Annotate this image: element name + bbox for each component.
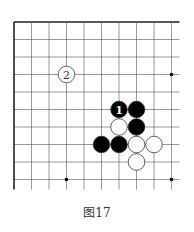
- stone-body: [128, 136, 145, 153]
- star-point: [65, 178, 69, 182]
- figure-caption: 图17: [0, 203, 194, 220]
- move-number-label: 1: [115, 104, 123, 117]
- white-stone: [111, 119, 128, 136]
- move-number-label: 2: [63, 69, 70, 82]
- star-point: [170, 178, 174, 182]
- stone-body: [128, 119, 145, 136]
- black-stone: [128, 101, 145, 118]
- stone-body: [111, 119, 128, 136]
- white-stone: [128, 136, 145, 153]
- black-stone: 1: [111, 101, 128, 118]
- stone-body: [146, 136, 163, 153]
- stone-body: [93, 136, 110, 153]
- white-stone: 2: [58, 66, 75, 83]
- black-stone: [93, 136, 110, 153]
- white-stone: [146, 136, 163, 153]
- black-stone: [111, 136, 128, 153]
- stone-body: [111, 136, 128, 153]
- board-grid: [14, 22, 180, 190]
- black-stone: [128, 119, 145, 136]
- stone-body: [128, 101, 145, 118]
- star-point: [170, 73, 174, 77]
- stone-body: [128, 154, 145, 171]
- stones: 12: [58, 66, 162, 170]
- go-board: 12: [0, 0, 194, 200]
- white-stone: [128, 154, 145, 171]
